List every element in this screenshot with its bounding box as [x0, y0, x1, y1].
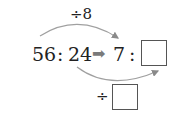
answer-box-ratio[interactable] — [141, 40, 167, 66]
right-arrow-icon: ➡ — [92, 46, 105, 62]
top-divisor: 8 — [83, 5, 93, 23]
left-ratio-colon: : — [57, 45, 63, 64]
right-ratio-colon: : — [129, 45, 135, 64]
left-ratio-second: 24 — [68, 45, 92, 64]
right-ratio-first: 7 — [113, 45, 125, 64]
divide-icon: ÷ — [70, 5, 83, 23]
top-arc — [40, 24, 118, 38]
left-ratio-first: 56 — [32, 45, 56, 64]
top-divide-label: ÷8 — [70, 7, 92, 22]
divide-icon: ÷ — [96, 89, 109, 104]
bottom-arc — [77, 67, 158, 81]
answer-box-divisor[interactable] — [112, 84, 138, 110]
